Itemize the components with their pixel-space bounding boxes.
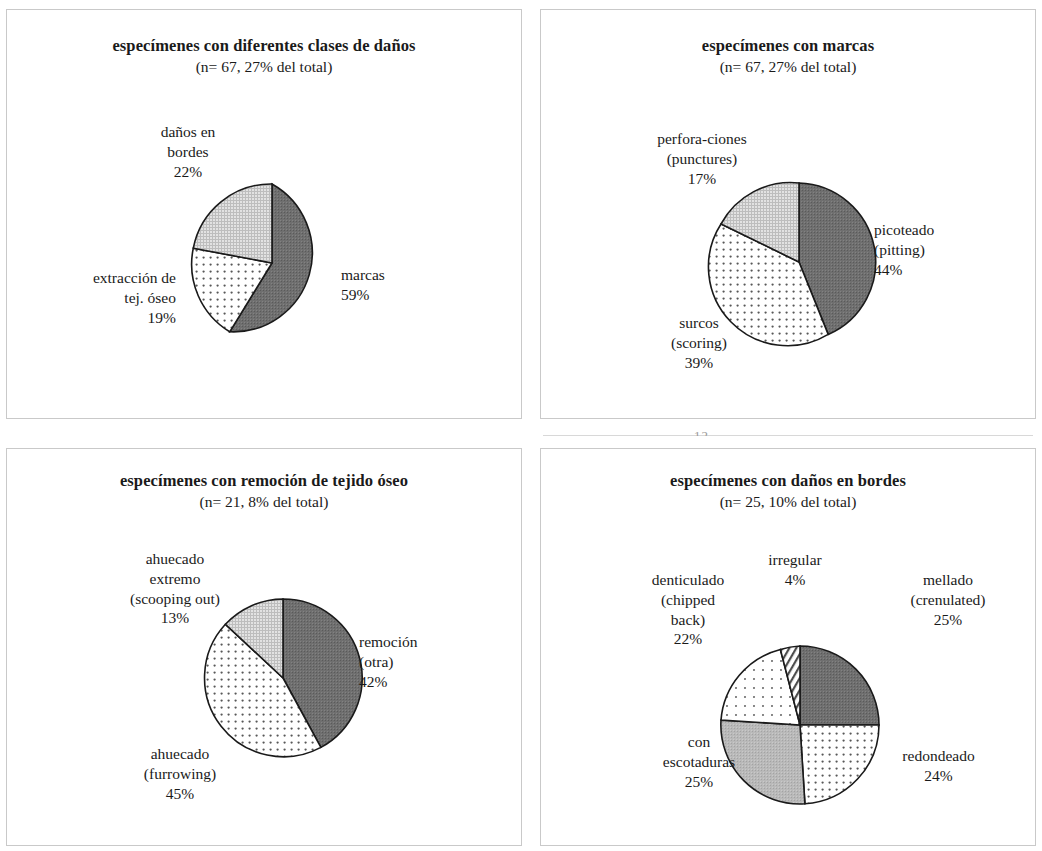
pie-label-ahuecado: ahuecado (furrowing) 45% bbox=[120, 744, 240, 803]
chart-subtitle-danos: (n= 67, 27% del total) bbox=[7, 57, 521, 76]
pie-label-escotaduras: con escotaduras 25% bbox=[629, 732, 769, 791]
chart-title-bordes: especímenes con daños en bordes bbox=[541, 471, 1035, 492]
pie-label-mellado: mellado (crenulated) 25% bbox=[874, 570, 1022, 629]
chart-subtitle-remocion: (n= 21, 8% del total) bbox=[7, 492, 521, 511]
pie-slice-mellado bbox=[800, 646, 879, 725]
pie-label-danos-bordes: daños en bordes 22% bbox=[133, 122, 243, 181]
pie-label-picoteado: picoteado (pitting) 44% bbox=[874, 220, 934, 279]
pie-slice-danos-bordes bbox=[193, 184, 272, 263]
chart-title-remocion: especímenes con remoción de tejido óseo bbox=[7, 471, 521, 492]
pie-label-irregular: irregular 4% bbox=[740, 550, 850, 590]
chart-subtitle-marcas: (n= 67, 27% del total) bbox=[541, 57, 1035, 76]
pie-label-redondeado: redondeado 24% bbox=[871, 746, 1006, 786]
pie-label-ahuecado-extremo: ahuecado extremo (scooping out) 13% bbox=[109, 549, 241, 628]
pie-label-remocion-otra: remoción (otra) 42% bbox=[359, 632, 418, 691]
pie-chart-danos bbox=[188, 179, 356, 347]
chart-panel-marcas: especímenes con marcas (n= 67, 27% del t… bbox=[540, 9, 1036, 419]
chart-subtitle-bordes: (n= 25, 10% del total) bbox=[541, 492, 1035, 511]
page-number-artifact: 12 bbox=[694, 429, 709, 436]
pie-label-perforaciones: perfora-ciones (punctures) 17% bbox=[629, 129, 775, 188]
chart-panel-bordes: especímenes con daños en bordes (n= 25, … bbox=[540, 448, 1036, 846]
page-sheet: especímenes con diferentes clases de dañ… bbox=[0, 0, 1042, 851]
pie-label-marcas: marcas 59% bbox=[341, 265, 385, 305]
pie-slice-redondeado bbox=[800, 725, 879, 804]
chart-title-danos: especímenes con diferentes clases de dañ… bbox=[7, 36, 521, 57]
pie-label-extraccion: extracción de tej. óseo 19% bbox=[93, 268, 176, 327]
chart-title-marcas: especímenes con marcas bbox=[541, 36, 1035, 57]
chart-panel-danos: especímenes con diferentes clases de dañ… bbox=[6, 9, 522, 419]
scan-rule-artifact bbox=[543, 435, 1033, 436]
chart-panel-remocion: especímenes con remoción de tejido óseo … bbox=[6, 448, 522, 846]
pie-label-denticulado: denticulado (chipped back) 22% bbox=[618, 570, 758, 649]
pie-label-surcos: surcos (scoring) 39% bbox=[649, 313, 749, 372]
